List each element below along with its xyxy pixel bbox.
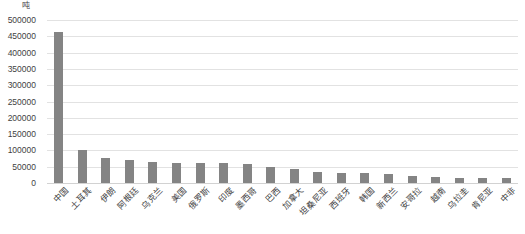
gridline <box>47 85 518 86</box>
y-axis-tick-label: 100000 <box>0 146 36 155</box>
bar <box>196 163 205 183</box>
bar <box>455 178 464 183</box>
bar <box>172 163 181 183</box>
gridline <box>47 69 518 70</box>
bar-chart: 吨 50000045000040000035000030000025000020… <box>0 0 525 234</box>
bar <box>408 176 417 183</box>
y-axis-tick-label: 50000 <box>0 163 36 172</box>
gridline <box>47 36 518 37</box>
gridline <box>47 183 518 184</box>
bar <box>78 150 87 183</box>
bar <box>290 169 299 183</box>
gridline <box>47 53 518 54</box>
gridline <box>47 102 518 103</box>
bar <box>478 178 487 183</box>
bar <box>431 177 440 183</box>
bar <box>243 164 252 183</box>
y-axis-tick-label: 0 <box>0 179 36 188</box>
bar <box>337 173 346 183</box>
y-axis-tick-label: 300000 <box>0 81 36 90</box>
bar <box>125 160 134 183</box>
y-axis-tick-label: 350000 <box>0 65 36 74</box>
y-axis-tick-label: 450000 <box>0 32 36 41</box>
y-axis-tick-label: 200000 <box>0 114 36 123</box>
bar <box>219 163 228 183</box>
y-axis-unit-label: 吨 <box>22 1 30 11</box>
gridline <box>47 150 518 151</box>
plot-area <box>47 20 518 183</box>
bar <box>148 162 157 183</box>
bar <box>101 158 110 183</box>
y-axis-tick-label: 150000 <box>0 130 36 139</box>
gridline <box>47 20 518 21</box>
y-axis-tick-label: 500000 <box>0 16 36 25</box>
bar <box>313 172 322 183</box>
y-axis-tick-label: 400000 <box>0 49 36 58</box>
x-axis-category-labels: 中国土耳其伊朗阿根廷乌克兰美国俄罗斯印度墨西哥巴西加拿大坦桑尼亚西班牙韩国新西兰… <box>47 185 518 234</box>
gridline <box>47 134 518 135</box>
bar <box>54 32 63 183</box>
bar <box>384 174 393 183</box>
bar <box>360 173 369 183</box>
bar <box>266 167 275 183</box>
y-axis-tick-label: 250000 <box>0 98 36 107</box>
bar <box>502 178 511 183</box>
gridline <box>47 167 518 168</box>
gridline <box>47 118 518 119</box>
